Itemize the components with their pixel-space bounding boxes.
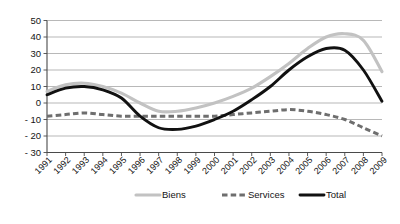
chart-canvas: 50403020100- 10- 20- 30 1991199219931994… (0, 0, 400, 224)
y-tick-label: 30 (30, 48, 41, 59)
y-tick-label: 10 (30, 81, 41, 92)
line-chart: 50403020100- 10- 20- 30 1991199219931994… (0, 0, 400, 224)
legend-label-biens: Biens (162, 189, 186, 200)
y-tick-label: 0 (36, 97, 41, 108)
y-tick-label: 50 (30, 15, 41, 26)
legend-label-services: Services (248, 189, 285, 200)
y-tick-label: - 30 (25, 147, 41, 158)
y-tick-label: 40 (30, 31, 41, 42)
legend-label-total: Total (326, 189, 346, 200)
y-tick-label: - 20 (25, 130, 41, 141)
y-tick-label: 20 (30, 64, 41, 75)
y-tick-label: - 10 (25, 114, 41, 125)
